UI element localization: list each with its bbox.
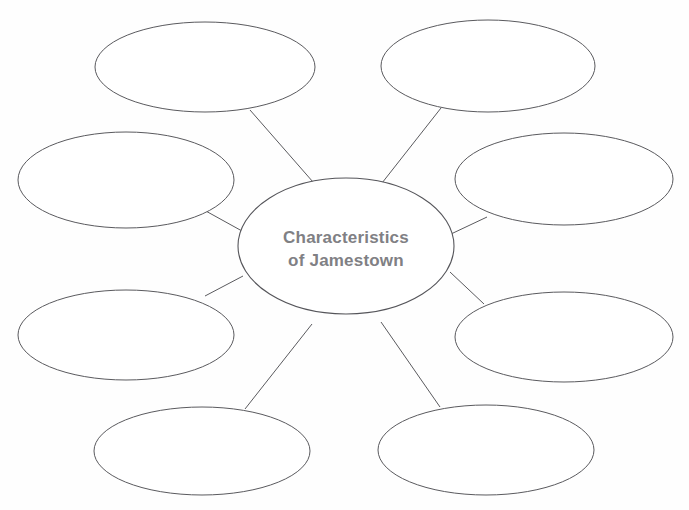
node-bottom-right[interactable] bbox=[378, 405, 594, 495]
worksheet-canvas: Characteristics of Jamestown bbox=[0, 0, 689, 510]
connector-bottom-right bbox=[381, 322, 440, 407]
center-node-group: Characteristics of Jamestown bbox=[238, 178, 454, 314]
connector-bottom-left bbox=[245, 324, 312, 409]
node-lower-left[interactable] bbox=[18, 290, 234, 380]
connector-lower-left bbox=[205, 276, 243, 296]
connector-middle-right bbox=[451, 217, 487, 234]
connector-middle-left bbox=[204, 210, 242, 231]
center-title-line2: of Jamestown bbox=[288, 251, 404, 270]
node-bottom-left[interactable] bbox=[94, 407, 310, 495]
node-middle-left[interactable] bbox=[18, 132, 234, 228]
connector-top-right bbox=[382, 108, 441, 183]
node-top-right[interactable] bbox=[381, 20, 595, 112]
node-middle-right[interactable] bbox=[455, 133, 673, 225]
connector-top-left bbox=[250, 110, 313, 182]
connector-lower-right bbox=[450, 272, 484, 304]
node-top-left[interactable] bbox=[95, 22, 315, 112]
node-lower-right[interactable] bbox=[455, 292, 673, 382]
concept-web-diagram: Characteristics of Jamestown bbox=[0, 0, 689, 510]
center-title-line1: Characteristics bbox=[283, 228, 409, 247]
